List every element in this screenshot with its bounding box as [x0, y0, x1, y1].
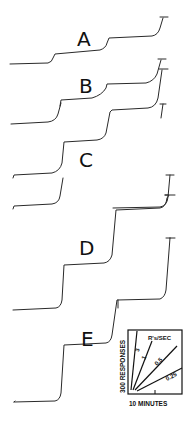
rate-label-05: 0.5 — [153, 356, 164, 367]
curve-c-lower — [13, 175, 174, 209]
label-d: D — [79, 236, 94, 260]
label-a: A — [77, 27, 91, 51]
label-c: C — [79, 148, 93, 172]
y-scale-label: 300 RESPONSES — [119, 339, 126, 393]
curve-e-lower — [14, 300, 118, 402]
rates-title: R's/SEC — [148, 335, 172, 341]
label-e: E — [81, 327, 94, 351]
rate-legend: R's/SEC 3 1 0.5 0.25 300 RESPONSES 10 MI… — [119, 330, 182, 407]
rate-label-3: 3 — [134, 347, 141, 352]
curve-b — [60, 59, 166, 106]
x-scale-label: 10 MINUTES — [129, 400, 168, 407]
label-b: B — [79, 74, 93, 98]
rate-label-025: 0.25 — [165, 371, 179, 382]
rate-line-025 — [137, 368, 182, 391]
cumulative-record-chart: A B C D E R's/SEC 3 1 0.5 0.25 300 RESPO… — [0, 0, 194, 435]
curve-b-continuation — [11, 103, 166, 124]
